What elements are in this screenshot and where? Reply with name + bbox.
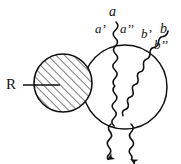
label-a-prime: a’ (95, 22, 106, 35)
open-interaction-circle (83, 45, 167, 129)
label-b-double-prime: b’’ (154, 38, 168, 51)
figure-root: R a a’ a’’ b’ b b’’ (0, 0, 181, 164)
wavy-line-outgoing-left (107, 124, 111, 159)
label-region-R: R (6, 77, 16, 92)
label-a: a (109, 5, 116, 19)
label-b: b (160, 22, 167, 36)
diagram-canvas (0, 0, 181, 164)
label-a-double-prime: a’’ (120, 22, 134, 35)
label-b-prime: b’ (141, 27, 152, 40)
